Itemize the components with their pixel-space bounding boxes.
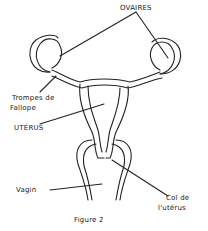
label-col-line2: l'utérus [158, 204, 186, 212]
figure-caption: Figure 2 [74, 216, 104, 224]
label-ovaires: OVAIRES [120, 4, 152, 12]
label-trompes-line1: Trompes de [12, 94, 54, 102]
label-trompes-line2: Fallope [10, 104, 36, 112]
cervix [77, 140, 92, 200]
label-col-line1: Col de [166, 194, 189, 202]
left-ovary [36, 39, 61, 72]
label-uterus: UTÉRUS [14, 124, 43, 132]
fallopian-tubes [52, 70, 160, 82]
right-ovary [150, 42, 174, 74]
label-vagin: Vagin [16, 186, 36, 194]
